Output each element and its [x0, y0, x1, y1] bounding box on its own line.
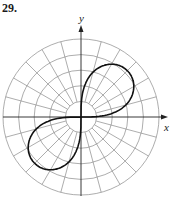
polar-graph [0, 0, 173, 204]
